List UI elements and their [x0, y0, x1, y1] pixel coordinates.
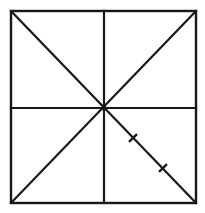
geometry-figure — [0, 0, 205, 213]
center-intersection-point — [101, 105, 106, 110]
figure-canvas — [0, 0, 205, 213]
